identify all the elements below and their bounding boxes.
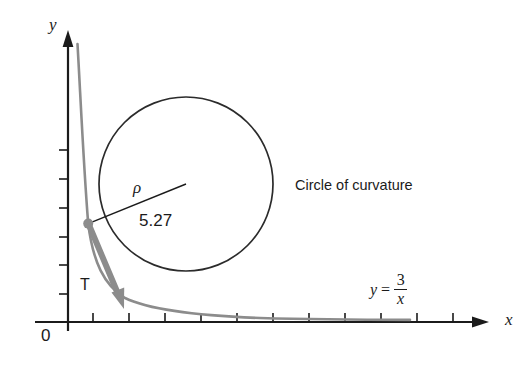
curve-equation-label: y = 3 x <box>370 272 407 307</box>
equation-fraction: 3 x <box>394 272 407 307</box>
y-axis <box>63 30 74 331</box>
tangent-vector-arrowhead <box>112 288 125 310</box>
radius-value-label: 5.27 <box>139 212 172 229</box>
x-axis-label: x <box>505 311 513 328</box>
curvature-diagram: y x 0 ρ 5.27 T Circle of curvature y = 3… <box>0 0 530 368</box>
y-axis-arrowhead <box>63 30 74 47</box>
origin-label: 0 <box>41 327 50 344</box>
diagram-canvas <box>0 0 530 368</box>
equation-numerator: 3 <box>395 272 407 289</box>
equation-lhs: y <box>370 282 377 298</box>
y-axis-ticks <box>59 150 68 294</box>
radius-symbol-label: ρ <box>133 179 141 196</box>
equation-denominator: x <box>395 290 406 307</box>
tangent-vector <box>89 225 124 309</box>
point-of-tangency <box>83 219 93 229</box>
tangent-vector-label: T <box>80 277 90 293</box>
tangent-vector-shaft <box>89 225 119 295</box>
circle-of-curvature-caption: Circle of curvature <box>295 178 413 193</box>
x-axis-arrowhead <box>472 317 489 328</box>
y-axis-label: y <box>49 16 57 33</box>
equation-equals-sign: = <box>381 282 390 298</box>
